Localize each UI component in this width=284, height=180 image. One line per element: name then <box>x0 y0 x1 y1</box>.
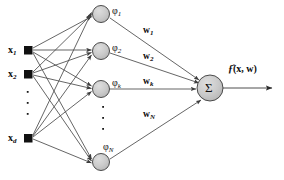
ellipsis-dot <box>102 117 104 119</box>
edge-x2-phik <box>33 75 92 89</box>
label-wk-base: w <box>143 76 150 86</box>
label-phi2: φ2 <box>112 43 121 55</box>
label-output-args: (x, w) <box>233 63 257 74</box>
edge-x2-phi2 <box>33 53 92 74</box>
label-wk: wk <box>143 77 153 88</box>
label-output-function: ƒ̂(x, w) <box>228 64 257 74</box>
network-graphics <box>0 0 284 180</box>
ellipsis-dot <box>102 106 104 108</box>
label-input-x2-sub: 2 <box>13 73 17 81</box>
label-input-x2: x2 <box>8 69 17 81</box>
edge-xd-phik <box>33 92 92 138</box>
label-w1-sub: 1 <box>150 29 154 37</box>
label-input-x1: x1 <box>8 45 17 57</box>
label-w2-base: w <box>143 51 150 61</box>
label-phik: φk <box>112 78 121 90</box>
label-wN: wN <box>143 110 155 121</box>
hidden-to-sum-edges <box>110 18 201 159</box>
label-phik-sub: k <box>118 82 121 90</box>
edge-xd-phi2 <box>33 55 92 136</box>
ellipsis-dot <box>27 91 29 93</box>
input-ellipsis <box>27 91 29 115</box>
node-x1 <box>24 46 33 55</box>
node-x2 <box>24 70 33 79</box>
label-wN-base: w <box>143 109 150 119</box>
node-xd <box>24 134 33 143</box>
label-wk-sub: k <box>150 80 154 88</box>
label-input-x1-sub: 1 <box>13 49 17 57</box>
node-phi2 <box>93 43 110 60</box>
edge-x2-phiN <box>33 76 92 161</box>
label-phi2-sub: 2 <box>118 47 122 55</box>
label-phi1-sub: 1 <box>118 10 122 18</box>
label-w2-sub: 2 <box>150 55 154 63</box>
label-w2: w2 <box>143 52 153 63</box>
ellipsis-dot <box>27 113 29 115</box>
label-input-xd: xd <box>8 133 17 145</box>
label-phi1: φ1 <box>112 6 121 18</box>
edge-phi2-sigma <box>110 53 199 83</box>
edge-phiN-sigma <box>110 100 201 159</box>
hidden-ellipsis <box>102 106 104 130</box>
input-to-hidden-edges <box>33 13 92 164</box>
rbf-network-diagram: x1 x2 xd φ1 φ2 φk φN w1 w2 wk wN Σ ƒ̂(x,… <box>0 0 284 180</box>
label-wN-sub: N <box>150 113 155 121</box>
label-summation-symbol: Σ <box>205 81 213 94</box>
node-phi1 <box>93 6 110 23</box>
edge-xd-phi1 <box>33 13 92 136</box>
label-input-xd-sub: d <box>13 137 17 145</box>
edge-phi1-sigma <box>110 18 199 80</box>
label-w1: w1 <box>143 26 153 37</box>
node-phik <box>93 81 110 98</box>
node-phiN <box>93 154 110 171</box>
label-phiN: φN <box>103 142 113 154</box>
label-w1-base: w <box>143 25 150 35</box>
input-nodes <box>24 46 33 143</box>
ellipsis-dot <box>27 102 29 104</box>
ellipsis-dot <box>102 128 104 130</box>
label-phiN-sub: N <box>109 146 114 154</box>
